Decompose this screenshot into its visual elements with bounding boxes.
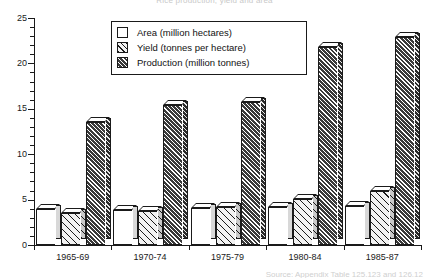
bar-production [241, 102, 260, 245]
legend-item-area: Area (million hectares) [117, 25, 300, 40]
x-axis-label: 1985-87 [344, 252, 421, 266]
bar-production [318, 47, 337, 245]
y-axis-label: 20 [1, 59, 27, 68]
bar-side-face [338, 43, 343, 239]
x-tick [344, 245, 345, 250]
legend-swatch-yield-icon [117, 42, 128, 53]
bar-yield [216, 207, 235, 245]
chart-title: Rice production, yield and area [0, 0, 429, 6]
bar-area [191, 208, 210, 245]
chart-caption: Source: Appendix Table 125.123 and 126.1… [0, 270, 429, 278]
bar-side-face [261, 98, 266, 239]
bar-side-face [183, 101, 188, 239]
bar-area [268, 207, 287, 245]
bar-area [113, 210, 132, 245]
bar-production [395, 37, 414, 245]
bar-group [34, 18, 111, 245]
legend-item-production: Production (million tonnes) [117, 55, 300, 70]
x-axis-label: 1975-79 [189, 252, 266, 266]
bar-chart: Rice production, yield and area 25 20 15… [0, 0, 429, 278]
legend-label-area: Area (million hectares) [137, 27, 232, 38]
x-tick [189, 245, 190, 250]
x-tick [34, 245, 35, 250]
bar-side-face [106, 118, 111, 239]
legend-label-yield: Yield (tonnes per hectare) [137, 42, 246, 53]
bar-yield [293, 199, 312, 245]
y-axis-label: 0 [1, 241, 27, 250]
bar-area [345, 206, 364, 245]
legend-swatch-production-icon [117, 57, 128, 68]
bar-yield [370, 191, 389, 245]
legend-item-yield: Yield (tonnes per hectare) [117, 40, 300, 55]
y-axis-label: 25 [1, 14, 27, 23]
y-axis-label: 10 [1, 150, 27, 159]
x-axis-label: 1965-69 [34, 252, 111, 266]
x-axis-label: 1980-84 [266, 252, 343, 266]
bar-area [36, 209, 55, 245]
x-axis-label: 1970-74 [111, 252, 188, 266]
chart-legend: Area (million hectares) Yield (tonnes pe… [111, 21, 307, 75]
bar-yield [138, 211, 157, 246]
x-axis-labels: 1965-691970-741975-791980-841985-87 [34, 252, 421, 266]
x-axis-line [34, 245, 421, 246]
bar-production [163, 105, 182, 245]
y-axis-label: 5 [1, 195, 27, 204]
y-axis-label: 15 [1, 104, 27, 113]
bar-group [344, 18, 421, 245]
legend-label-production: Production (million tonnes) [137, 57, 249, 68]
x-tick [266, 245, 267, 250]
bar-yield [61, 213, 80, 245]
y-axis-labels: 25 20 15 10 5 0 [0, 0, 27, 278]
bar-production [86, 122, 105, 245]
x-tick [421, 245, 422, 250]
bar-side-face [415, 33, 420, 239]
x-tick [111, 245, 112, 250]
legend-swatch-area-icon [117, 27, 128, 38]
